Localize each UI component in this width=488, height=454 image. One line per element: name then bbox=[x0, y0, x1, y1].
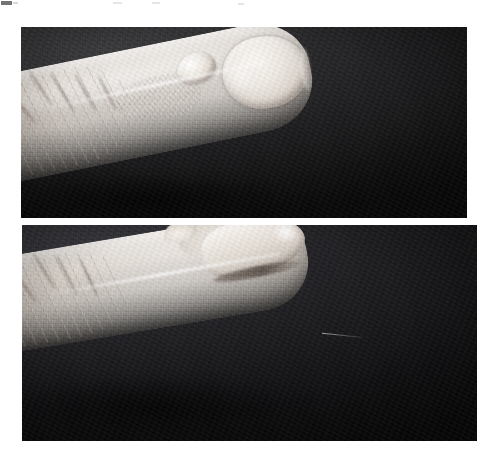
cast-shadow bbox=[22, 375, 308, 437]
clinical-photo-bottom: Lateral profile view of the same fingert… bbox=[22, 225, 477, 441]
scanned-page: Oblique dorsal view of a fingertip again… bbox=[0, 0, 488, 454]
specular-highlight bbox=[270, 225, 301, 244]
scan-artifact bbox=[13, 2, 18, 4]
specular-highlight bbox=[183, 58, 199, 72]
nail-plate bbox=[219, 32, 313, 113]
scan-artifact bbox=[238, 3, 244, 5]
lunula bbox=[226, 56, 256, 93]
clinical-photo-top: Oblique dorsal view of a fingertip again… bbox=[21, 27, 467, 218]
cast-shadow bbox=[21, 173, 291, 218]
scan-artifact bbox=[152, 2, 160, 4]
scan-artifact bbox=[113, 2, 122, 4]
scan-artifact bbox=[1, 1, 12, 5]
nail-plate-profile bbox=[197, 225, 310, 283]
